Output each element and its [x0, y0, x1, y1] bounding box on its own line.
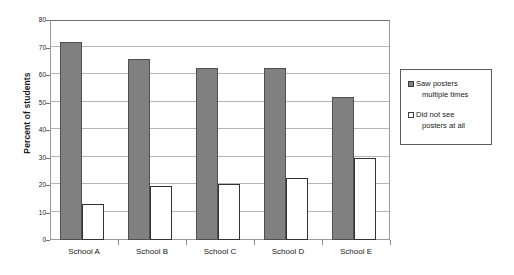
legend-label-line-1: Saw posters — [416, 79, 458, 88]
legend: Saw posters multiple times Did not see p… — [400, 69, 492, 145]
y-axis-tick-label: 0 — [6, 237, 46, 244]
gridline — [51, 46, 389, 47]
legend-swatch-gray-icon — [408, 81, 414, 87]
y-axis-tick-label: 80 — [6, 17, 46, 24]
x-axis-tick-mark — [186, 240, 187, 245]
y-axis-tick-label: 20 — [6, 182, 46, 189]
y-axis-tick-label: 10 — [6, 209, 46, 216]
legend-label-line-2: multiple times — [416, 90, 468, 101]
y-axis-tick-mark — [46, 240, 50, 241]
legend-label-saw-posters: Saw posters multiple times — [416, 79, 468, 100]
bar-chart: Percent of students 01020304050607080 Sa… — [0, 0, 514, 275]
x-axis-category-label: School D — [272, 247, 304, 256]
x-axis-tick-mark — [118, 240, 119, 245]
gridline — [51, 211, 389, 212]
plot-area — [50, 20, 390, 240]
legend-label-line-1: Did not see — [416, 110, 454, 119]
legend-item-saw-posters: Saw posters multiple times — [408, 79, 488, 100]
gridline — [51, 156, 389, 157]
y-axis-tick-label: 50 — [6, 99, 46, 106]
y-axis-tick-label: 60 — [6, 72, 46, 79]
x-axis-category-label: School B — [136, 247, 168, 256]
x-axis-tick-mark — [390, 240, 391, 245]
legend-label-did-not-see: Did not see posters at all — [416, 110, 465, 131]
x-axis-tick-mark — [322, 240, 323, 245]
legend-item-did-not-see: Did not see posters at all — [408, 110, 488, 131]
x-axis-tick-mark — [254, 240, 255, 245]
gridline — [51, 183, 389, 184]
legend-label-line-2: posters at all — [416, 121, 465, 132]
x-axis-category-label: School E — [340, 247, 372, 256]
gridline — [51, 101, 389, 102]
gridline — [51, 73, 389, 74]
x-axis-category-label: School A — [68, 247, 100, 256]
legend-swatch-white-icon — [408, 112, 414, 118]
x-axis-category-label: School C — [204, 247, 236, 256]
y-axis-tick-labels: 01020304050607080 — [2, 20, 46, 240]
y-axis-tick-label: 40 — [6, 127, 46, 134]
y-axis-tick-label: 30 — [6, 154, 46, 161]
y-axis-tick-label: 70 — [6, 44, 46, 51]
gridline — [51, 128, 389, 129]
